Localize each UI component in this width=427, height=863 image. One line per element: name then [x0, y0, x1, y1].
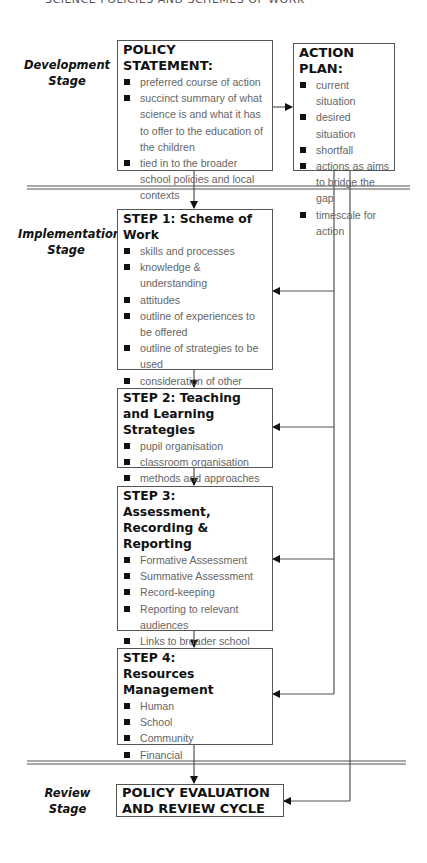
step-3-box: STEP 3: Assessment, Recording & Reportin…: [117, 486, 273, 631]
list-item-text: pupil organisation: [140, 440, 223, 452]
square-bullet-icon: [124, 443, 130, 449]
list-item: School: [123, 714, 267, 730]
list-item-text: preferred course of action: [140, 76, 261, 88]
square-bullet-icon: [124, 735, 130, 741]
list-item: actions as aims to bridge the gap: [299, 158, 389, 207]
list-item-text: succinct summary of what science is and …: [140, 92, 263, 153]
list-item: Community: [123, 730, 267, 746]
square-bullet-icon: [124, 475, 130, 481]
stage-label-review: Review Stage: [30, 785, 105, 817]
list-item: skills and processes: [123, 243, 267, 259]
action-plan-box: ACTION PLAN: current situation desired s…: [293, 43, 395, 171]
square-bullet-icon: [124, 752, 130, 758]
list-item: Formative Assessment: [123, 552, 267, 568]
list-item-text: Reporting to relevant audiences: [140, 603, 238, 631]
list-item-text: Human: [140, 700, 174, 712]
list-item: Human: [123, 698, 267, 714]
step-1-list: skills and processes knowledge & underst…: [123, 243, 267, 405]
square-bullet-icon: [300, 212, 306, 218]
list-item: current situation: [299, 77, 389, 109]
list-item-text: timescale for action: [316, 209, 376, 237]
list-item-text: Record-keeping: [140, 586, 215, 598]
list-item-text: methods and approaches: [140, 472, 260, 484]
list-item: outline of experiences to be offered: [123, 308, 267, 340]
square-bullet-icon: [124, 606, 130, 612]
list-item: Reporting to relevant audiences: [123, 601, 267, 633]
list-item: classroom organisation: [123, 454, 267, 470]
stage-label-line: Stage: [22, 73, 112, 89]
list-item: methods and approaches: [123, 470, 267, 486]
policy-evaluation-review-box: POLICY EVALUATION AND REVIEW CYCLE: [116, 784, 284, 817]
list-item-text: Summative Assessment: [140, 570, 253, 582]
list-item-text: Community: [140, 732, 194, 744]
square-bullet-icon: [300, 114, 306, 120]
list-item: tied in to the broader school policies a…: [123, 155, 267, 204]
list-item-text: knowledge & understanding: [140, 261, 207, 289]
policy-statement-title: POLICY STATEMENT:: [123, 42, 267, 74]
list-item: pupil organisation: [123, 438, 267, 454]
list-item: preferred course of action: [123, 74, 267, 90]
stage-label-line: Development: [22, 57, 112, 73]
list-item: outline of strategies to be used: [123, 340, 267, 372]
list-item: timescale for action: [299, 207, 389, 239]
square-bullet-icon: [124, 95, 130, 101]
list-item: shortfall: [299, 142, 389, 158]
square-bullet-icon: [124, 345, 130, 351]
list-item-text: outline of strategies to be used: [140, 342, 258, 370]
list-item: Summative Assessment: [123, 568, 267, 584]
square-bullet-icon: [300, 163, 306, 169]
action-plan-title: ACTION PLAN:: [299, 45, 389, 77]
step-4-title: STEP 4: Resources Management: [123, 650, 233, 698]
list-item: desired situation: [299, 109, 389, 141]
stage-label-implementation: Implementation Stage: [18, 226, 114, 258]
step-1-box: STEP 1: Scheme of Work skills and proces…: [117, 209, 273, 370]
list-item-text: desired situation: [316, 111, 355, 139]
list-item: Record-keeping: [123, 584, 267, 600]
list-item-text: Formative Assessment: [140, 554, 247, 566]
stage-label-line: Implementation: [18, 226, 114, 242]
list-item: attitudes: [123, 292, 267, 308]
list-item-text: shortfall: [316, 144, 353, 156]
square-bullet-icon: [300, 82, 306, 88]
square-bullet-icon: [124, 264, 130, 270]
square-bullet-icon: [124, 703, 130, 709]
step-1-title: STEP 1: Scheme of Work: [123, 211, 267, 243]
square-bullet-icon: [300, 147, 306, 153]
stage-label-line: Stage: [18, 242, 114, 258]
step-2-box: STEP 2: Teaching and Learning Strategies…: [117, 388, 273, 468]
square-bullet-icon: [124, 589, 130, 595]
step-4-box: STEP 4: Resources Management Human Schoo…: [117, 648, 273, 745]
list-item-text: current situation: [316, 79, 355, 107]
step-2-title: STEP 2: Teaching and Learning Strategies: [123, 390, 243, 438]
square-bullet-icon: [124, 719, 130, 725]
stage-label-development: Development Stage: [22, 57, 112, 89]
list-item: succinct summary of what science is and …: [123, 90, 267, 155]
running-header: SCIENCE POLICIES AND SCHEMES OF WORK: [45, 0, 305, 6]
square-bullet-icon: [124, 573, 130, 579]
action-plan-list: current situation desired situation shor…: [299, 77, 389, 239]
list-item-text: actions as aims to bridge the gap: [316, 160, 389, 204]
step-4-list: Human School Community Financial: [123, 698, 267, 763]
square-bullet-icon: [124, 378, 130, 384]
list-item-text: School: [140, 716, 172, 728]
square-bullet-icon: [124, 160, 130, 166]
list-item-text: outline of experiences to be offered: [140, 310, 255, 338]
review-box-title: POLICY EVALUATION AND REVIEW CYCLE: [122, 785, 282, 817]
list-item-text: classroom organisation: [140, 456, 249, 468]
list-item: knowledge & understanding: [123, 259, 267, 291]
step-2-list: pupil organisation classroom organisatio…: [123, 438, 267, 487]
square-bullet-icon: [124, 248, 130, 254]
list-item-text: attitudes: [140, 294, 180, 306]
square-bullet-icon: [124, 638, 130, 644]
square-bullet-icon: [124, 313, 130, 319]
list-item: Financial: [123, 747, 267, 763]
list-item-text: skills and processes: [140, 245, 235, 257]
list-item-text: Financial: [140, 749, 182, 761]
stage-label-line: Review: [30, 785, 105, 801]
stage-label-line: Stage: [30, 801, 105, 817]
square-bullet-icon: [124, 557, 130, 563]
step-3-title: STEP 3: Assessment, Recording & Reportin…: [123, 488, 253, 552]
square-bullet-icon: [124, 459, 130, 465]
policy-statement-box: POLICY STATEMENT: preferred course of ac…: [117, 40, 273, 171]
square-bullet-icon: [124, 297, 130, 303]
